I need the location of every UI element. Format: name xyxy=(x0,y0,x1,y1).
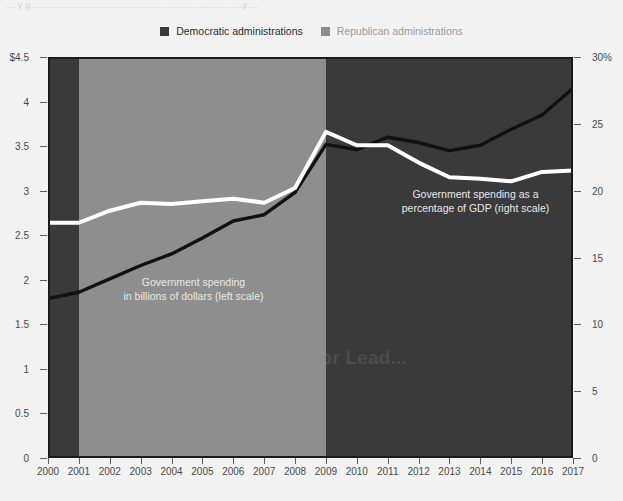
x-tick-label-2006: 2006 xyxy=(222,466,244,477)
y-tick-label-left-9: $4.5 xyxy=(10,52,29,63)
y-tick-label-right-0: 0 xyxy=(592,453,598,464)
y-tick-label-left-1: 0.5 xyxy=(15,408,29,419)
legend-swatch-republican xyxy=(321,27,330,36)
y-tick-left-2 xyxy=(40,369,47,370)
y-tick-left-5 xyxy=(40,235,47,236)
x-tick-label-2015: 2015 xyxy=(500,466,522,477)
x-tick-label-2007: 2007 xyxy=(253,466,275,477)
x-tick-label-2012: 2012 xyxy=(407,466,429,477)
x-tick-2000 xyxy=(48,458,49,464)
background-bleed-text: ...ens and the Senior Lead... xyxy=(150,347,480,373)
y-tick-label-left-6: 3 xyxy=(23,185,29,196)
y-tick-label-right-3: 15 xyxy=(592,252,603,263)
x-tick-label-2014: 2014 xyxy=(469,466,491,477)
x-tick-2008 xyxy=(295,458,296,464)
x-tick-label-2004: 2004 xyxy=(160,466,182,477)
legend-label-republican: Republican administrations xyxy=(337,26,463,37)
x-tick-label-2003: 2003 xyxy=(130,466,152,477)
x-tick-label-2011: 2011 xyxy=(377,466,399,477)
x-tick-label-2005: 2005 xyxy=(191,466,213,477)
y-tick-left-7 xyxy=(40,146,47,147)
y-tick-left-6 xyxy=(40,191,47,192)
y-tick-left-1 xyxy=(40,413,47,414)
y-tick-right-6 xyxy=(574,57,581,58)
y-tick-right-2 xyxy=(574,324,581,325)
x-tick-label-2010: 2010 xyxy=(346,466,368,477)
y-tick-right-5 xyxy=(574,124,581,125)
chart-legend: Democratic administrations Republican ad… xyxy=(0,22,623,40)
legend-item-republican: Republican administrations xyxy=(321,26,463,37)
x-tick-2009 xyxy=(326,458,327,464)
y-tick-left-9 xyxy=(40,57,47,58)
y-tick-label-right-2: 10 xyxy=(592,319,603,330)
x-tick-2015 xyxy=(511,458,512,464)
y-axis-left: 00.511.522.533.54$4.5 xyxy=(0,57,40,458)
y-tick-left-8 xyxy=(40,102,47,103)
legend-item-democratic: Democratic administrations xyxy=(160,26,303,37)
x-tick-2012 xyxy=(419,458,420,464)
x-tick-2004 xyxy=(172,458,173,464)
x-tick-2003 xyxy=(141,458,142,464)
y-tick-label-right-1: 5 xyxy=(592,386,598,397)
annotation-gdp: Government spending as a percentage of G… xyxy=(378,187,573,215)
x-tick-2017 xyxy=(573,458,574,464)
x-tick-2013 xyxy=(449,458,450,464)
y-tick-right-4 xyxy=(574,191,581,192)
chart-lines xyxy=(48,57,573,458)
x-tick-2011 xyxy=(388,458,389,464)
x-tick-label-2016: 2016 xyxy=(531,466,553,477)
annotation-gdp-line2: percentage of GDP (right scale) xyxy=(378,201,573,215)
x-tick-2006 xyxy=(233,458,234,464)
y-tick-label-right-4: 20 xyxy=(592,185,603,196)
y-tick-left-4 xyxy=(40,280,47,281)
y-tick-label-left-3: 1.5 xyxy=(15,319,29,330)
x-tick-2016 xyxy=(542,458,543,464)
x-tick-label-2009: 2009 xyxy=(315,466,337,477)
y-tick-label-left-2: 1 xyxy=(23,363,29,374)
y-tick-label-right-6: 30% xyxy=(592,52,612,63)
y-tick-right-3 xyxy=(574,258,581,259)
x-tick-2010 xyxy=(357,458,358,464)
y-tick-label-left-5: 2.5 xyxy=(15,230,29,241)
y-tick-right-0 xyxy=(574,458,581,459)
annotation-dollars-line2: in billions of dollars (left scale) xyxy=(96,289,291,303)
x-tick-label-2008: 2008 xyxy=(284,466,306,477)
plot-area: Government spending as a percentage of G… xyxy=(48,57,573,458)
annotation-dollars: Government spending in billions of dolla… xyxy=(96,275,291,303)
legend-swatch-democratic xyxy=(160,27,169,36)
y-tick-left-3 xyxy=(40,324,47,325)
x-tick-2007 xyxy=(264,458,265,464)
x-axis: 2000200120022003200420052006200720082009… xyxy=(48,458,573,488)
x-tick-2014 xyxy=(480,458,481,464)
y-tick-label-right-5: 25 xyxy=(592,118,603,129)
y-tick-right-1 xyxy=(574,391,581,392)
x-tick-label-2001: 2001 xyxy=(68,466,90,477)
x-tick-label-2013: 2013 xyxy=(438,466,460,477)
y-tick-label-left-4: 2 xyxy=(23,274,29,285)
legend-label-democratic: Democratic administrations xyxy=(176,26,303,37)
x-tick-2005 xyxy=(202,458,203,464)
annotation-gdp-line1: Government spending as a xyxy=(378,187,573,201)
x-tick-label-2000: 2000 xyxy=(37,466,59,477)
y-tick-label-left-0: 0 xyxy=(23,453,29,464)
y-tick-left-0 xyxy=(40,458,47,459)
top-bleed-text: ....y g.................................… xyxy=(0,0,623,12)
x-tick-label-2017: 2017 xyxy=(562,466,584,477)
y-axis-right: 051015202530% xyxy=(581,57,623,458)
x-tick-2001 xyxy=(79,458,80,464)
plot-wrapper: Government spending as a percentage of G… xyxy=(48,57,573,458)
y-tick-label-left-7: 3.5 xyxy=(15,141,29,152)
x-tick-label-2002: 2002 xyxy=(99,466,121,477)
annotation-dollars-line1: Government spending xyxy=(96,275,291,289)
y-tick-label-left-8: 4 xyxy=(23,96,29,107)
x-tick-2002 xyxy=(110,458,111,464)
